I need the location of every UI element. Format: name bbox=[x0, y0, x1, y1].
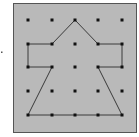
peg-dot bbox=[27, 19, 30, 22]
peg-dot bbox=[97, 114, 100, 117]
peg-dot bbox=[74, 90, 77, 93]
geoboard-figure bbox=[0, 0, 139, 137]
peg-dot bbox=[121, 114, 124, 117]
peg-dot bbox=[74, 66, 77, 69]
peg-dot bbox=[27, 66, 30, 69]
peg-dot bbox=[121, 19, 124, 22]
geoboard-diagram bbox=[0, 0, 139, 137]
peg-dot bbox=[27, 90, 30, 93]
peg-dot bbox=[97, 66, 100, 69]
peg-dot bbox=[121, 43, 124, 46]
peg-dot bbox=[51, 43, 54, 46]
peg-dot bbox=[27, 43, 30, 46]
peg-dot bbox=[51, 66, 54, 69]
peg-dot bbox=[121, 90, 124, 93]
peg-dot bbox=[97, 19, 100, 22]
peg-dot bbox=[74, 43, 77, 46]
peg-dot bbox=[51, 90, 54, 93]
peg-dot bbox=[97, 43, 100, 46]
side-marker bbox=[1, 52, 3, 54]
peg-dot bbox=[74, 114, 77, 117]
peg-dot bbox=[97, 90, 100, 93]
peg-dot bbox=[27, 114, 30, 117]
peg-dot bbox=[51, 19, 54, 22]
peg-dot bbox=[121, 66, 124, 69]
peg-dot bbox=[51, 114, 54, 117]
peg-dot bbox=[74, 19, 77, 22]
